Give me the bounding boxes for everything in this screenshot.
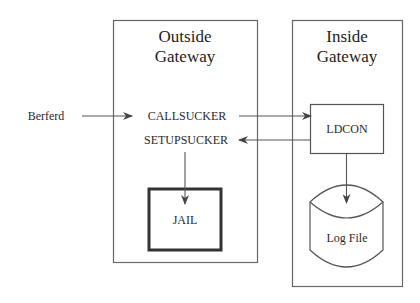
inside-title-line1: Inside bbox=[317, 27, 377, 47]
inside-gateway-title: Inside Gateway bbox=[317, 27, 377, 67]
inside-title-line2: Gateway bbox=[317, 47, 377, 67]
jail-label: JAIL bbox=[173, 213, 198, 228]
log-file-cylinder-top-curve bbox=[310, 202, 383, 218]
outside-title-line1: Outside bbox=[155, 27, 215, 47]
setupsucker-label: SETUPSUCKER bbox=[144, 133, 228, 148]
berferd-label: Berferd bbox=[28, 109, 65, 124]
outside-gateway-title: Outside Gateway bbox=[155, 27, 215, 67]
log-file-label: Log File bbox=[327, 231, 368, 246]
ldcon-label: LDCON bbox=[326, 122, 367, 137]
outside-title-line2: Gateway bbox=[155, 47, 215, 67]
callsucker-label: CALLSUCKER bbox=[148, 109, 227, 124]
